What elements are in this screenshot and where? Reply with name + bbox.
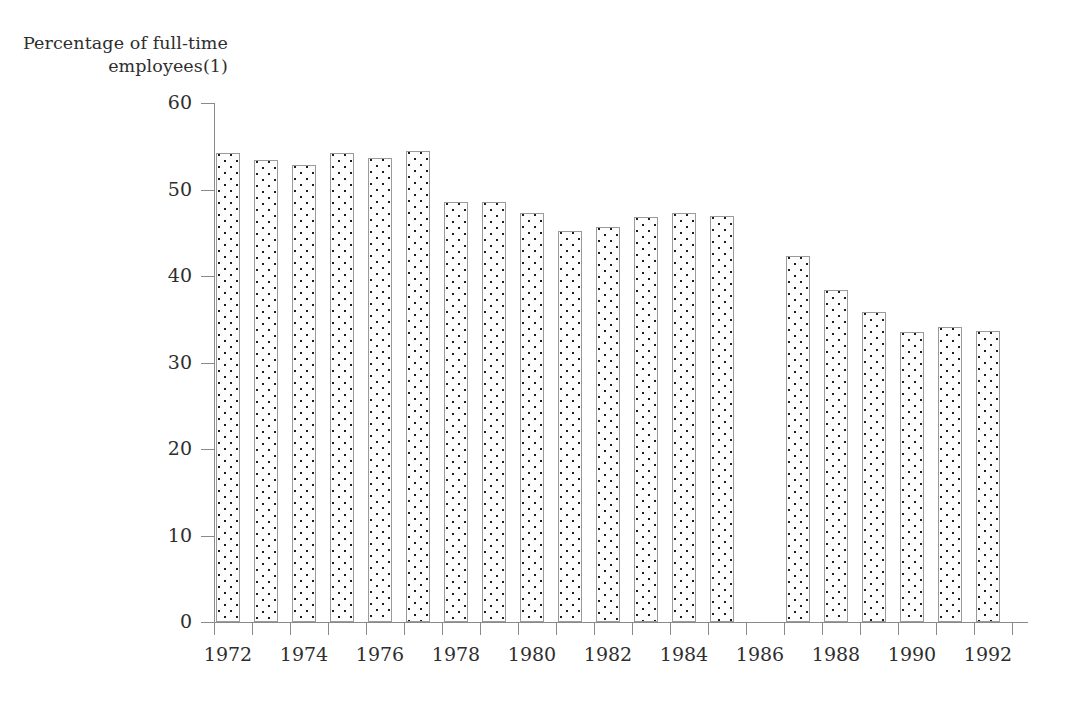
x-tick — [290, 622, 291, 635]
bar — [520, 213, 544, 622]
bar — [596, 227, 620, 622]
x-tick — [708, 622, 709, 635]
bar — [786, 256, 810, 622]
x-tick — [366, 622, 367, 635]
x-tick-label: 1980 — [502, 643, 562, 665]
bar — [976, 331, 1000, 622]
x-tick — [936, 622, 937, 635]
x-tick — [822, 622, 823, 635]
x-tick-label: 1992 — [958, 643, 1018, 665]
x-tick — [594, 622, 595, 635]
bar — [824, 290, 848, 622]
x-tick — [556, 622, 557, 635]
y-tick-label: 60 — [168, 92, 192, 112]
y-tick-label: 10 — [168, 525, 192, 545]
x-tick-label: 1978 — [426, 643, 486, 665]
x-tick — [670, 622, 671, 635]
x-tick-label: 1972 — [198, 643, 258, 665]
bar — [444, 202, 468, 622]
bar — [482, 202, 506, 622]
x-tick — [328, 622, 329, 635]
bar — [406, 151, 430, 622]
y-tick-label: 30 — [168, 352, 192, 372]
x-tick-label: 1982 — [578, 643, 638, 665]
x-tick — [518, 622, 519, 635]
y-tick: 20 — [201, 449, 214, 450]
bar — [558, 231, 582, 622]
x-tick-label: 1990 — [882, 643, 942, 665]
bar — [862, 312, 886, 622]
bar — [292, 165, 316, 622]
y-tick-label: 20 — [168, 438, 192, 458]
x-tick — [784, 622, 785, 635]
chart-title: Percentage of full-time employees(1) — [0, 32, 228, 78]
bar — [368, 158, 392, 623]
x-tick — [442, 622, 443, 635]
y-tick-label: 50 — [168, 179, 192, 199]
x-tick — [1012, 622, 1013, 635]
x-tick — [480, 622, 481, 635]
y-tick-label: 40 — [168, 265, 192, 285]
x-tick — [974, 622, 975, 635]
plot-area: 0102030405060 19721974197619781980198219… — [214, 103, 1034, 622]
x-tick — [632, 622, 633, 635]
x-axis-line — [214, 622, 1028, 623]
y-tick: 60 — [201, 103, 214, 104]
bar — [938, 327, 962, 622]
x-tick-label: 1976 — [350, 643, 410, 665]
y-tick: 40 — [201, 276, 214, 277]
chart-title-line-1: Percentage of full-time — [0, 32, 228, 55]
y-tick: 30 — [201, 363, 214, 364]
x-tick — [404, 622, 405, 635]
bar-chart: Percentage of full-time employees(1) 010… — [0, 0, 1078, 704]
y-tick: 0 — [201, 622, 214, 623]
bar — [900, 332, 924, 622]
y-axis-line — [214, 103, 215, 622]
x-tick — [898, 622, 899, 635]
x-tick-label: 1986 — [730, 643, 790, 665]
chart-title-line-2: employees(1) — [0, 55, 228, 78]
x-tick — [214, 622, 215, 635]
x-tick — [252, 622, 253, 635]
x-tick-label: 1974 — [274, 643, 334, 665]
x-tick — [746, 622, 747, 635]
y-tick: 10 — [201, 536, 214, 537]
x-tick — [860, 622, 861, 635]
bar — [672, 213, 696, 622]
bar — [216, 153, 240, 622]
y-tick-label: 0 — [180, 611, 192, 631]
bar — [710, 216, 734, 622]
bar — [254, 160, 278, 622]
bar — [634, 217, 658, 622]
y-tick: 50 — [201, 190, 214, 191]
x-tick-label: 1988 — [806, 643, 866, 665]
x-tick-label: 1984 — [654, 643, 714, 665]
bar — [330, 153, 354, 622]
